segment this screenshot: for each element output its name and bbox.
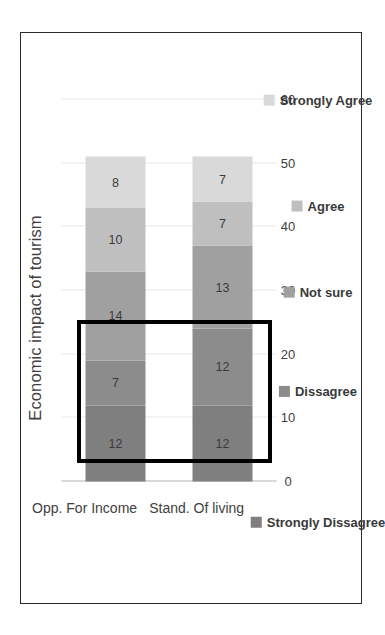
legend-label: Agree (307, 199, 344, 214)
legend-swatch-icon (250, 517, 261, 528)
bar-segment[interactable]: 7 (193, 201, 253, 246)
value-tick-40: 40 (273, 219, 303, 234)
bar-segment[interactable]: 7 (193, 157, 253, 202)
bar-segment[interactable]: 10 (85, 208, 145, 272)
bar-segment[interactable]: 12 (85, 405, 145, 481)
legend-label: Strongly Agree (279, 93, 372, 108)
legend-swatch-icon (263, 95, 274, 106)
legend-swatch-icon (278, 386, 289, 397)
bar-segment-value-label: 7 (219, 217, 226, 231)
bar-segment-value-label: 7 (219, 172, 226, 186)
value-tick-20: 20 (273, 347, 303, 362)
chart-frame: Economic impact of tourism 1271410812121… (20, 32, 362, 604)
bar-segment[interactable]: 7 (85, 361, 145, 406)
value-tick-10: 10 (273, 410, 303, 425)
bar-segment[interactable]: 12 (193, 405, 253, 481)
bar-segment-value-label: 12 (216, 360, 230, 374)
legend-label: Strongly Dissagree (266, 515, 385, 530)
legend-label: Dissagree (294, 384, 356, 399)
category-label: Stand. Of living (126, 500, 244, 516)
bar-stand-of-living[interactable]: 12121377 (193, 100, 253, 482)
legend-swatch-icon (291, 201, 302, 212)
bar-segment[interactable]: 14 (85, 271, 145, 360)
plot-area: 1271410812121377 (62, 100, 277, 482)
legend-item[interactable]: Strongly Agree (263, 93, 372, 108)
bar-opp-for-income[interactable]: 12714108 (85, 100, 145, 482)
chart-title: Economic impact of tourism (26, 34, 45, 603)
legend-item[interactable]: Dissagree (278, 384, 356, 399)
bar-segment[interactable]: 13 (193, 246, 253, 329)
bar-segment-value-label: 13 (216, 280, 230, 294)
bar-segment-value-label: 12 (216, 436, 230, 450)
legend-label: Not sure (299, 285, 352, 300)
bar-segment[interactable]: 12 (193, 329, 253, 405)
value-tick-0: 0 (273, 474, 303, 489)
bar-segment-value-label: 7 (112, 376, 119, 390)
bar-segment-value-label: 10 (108, 233, 122, 247)
bar-segment-value-label: 14 (108, 309, 122, 323)
category-label: Opp. For Income (19, 500, 137, 516)
bar-segment[interactable]: 8 (85, 157, 145, 208)
legend-item[interactable]: Not sure (283, 285, 352, 300)
legend-item[interactable]: Agree (291, 199, 344, 214)
bar-segment-value-label: 8 (112, 175, 119, 189)
value-tick-50: 50 (273, 156, 303, 171)
legend-swatch-icon (283, 287, 294, 298)
legend-item[interactable]: Strongly Dissagree (250, 515, 385, 530)
bar-segment-value-label: 12 (108, 436, 122, 450)
rotated-chart-canvas: Economic impact of tourism 1271410812121… (22, 34, 361, 603)
